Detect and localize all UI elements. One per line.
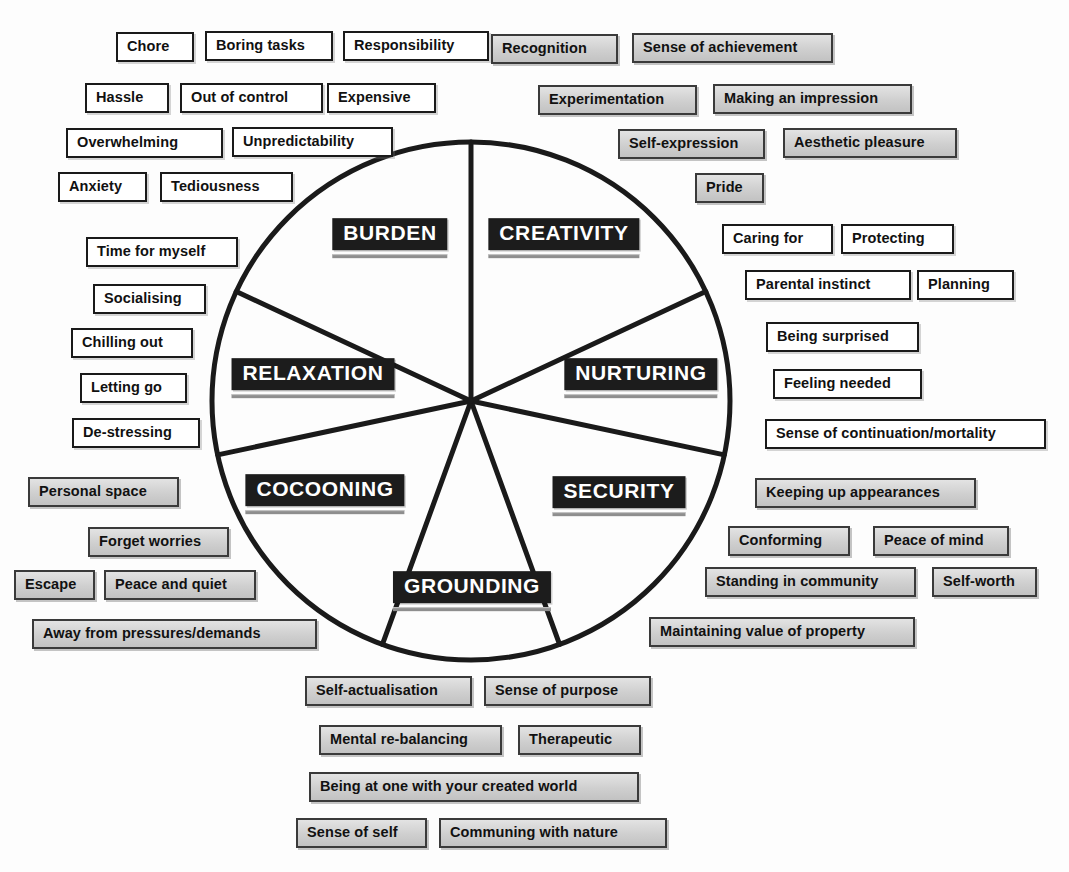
attribute-chip[interactable]: Unpredictability	[232, 127, 393, 157]
attribute-chip[interactable]: Communing with nature	[439, 818, 667, 848]
sector-label-relaxation[interactable]: RELAXATION	[232, 358, 395, 398]
attribute-chip[interactable]: De-stressing	[72, 418, 200, 448]
attribute-chip[interactable]: Away from pressures/demands	[32, 619, 317, 649]
attribute-chip[interactable]: Overwhelming	[66, 128, 223, 158]
sector-label-text-relaxation: RELAXATION	[232, 358, 395, 390]
attribute-chip[interactable]: Sense of self	[296, 818, 427, 848]
attribute-chip[interactable]: Expensive	[327, 83, 436, 113]
attribute-chip[interactable]: Sense of continuation/mortality	[765, 419, 1046, 449]
sector-label-underline-security	[553, 512, 686, 516]
attribute-chip[interactable]: Escape	[14, 570, 95, 600]
attribute-chip[interactable]: Keeping up appearances	[755, 478, 976, 508]
sector-label-underline-grounding	[393, 607, 551, 611]
attribute-chip[interactable]: Responsibility	[343, 31, 489, 61]
attribute-chip[interactable]: Self-worth	[932, 567, 1037, 597]
attribute-chip[interactable]: Boring tasks	[205, 31, 333, 61]
attribute-chip[interactable]: Chore	[116, 32, 194, 62]
attribute-chip[interactable]: Anxiety	[58, 172, 147, 202]
sector-label-underline-cocooning	[245, 510, 404, 514]
sector-divider-2	[471, 401, 724, 455]
attribute-chip[interactable]: Recognition	[491, 34, 618, 64]
attribute-chip[interactable]: Peace of mind	[873, 526, 1009, 556]
attribute-chip[interactable]: Conforming	[728, 526, 850, 556]
sector-label-underline-creativity	[488, 254, 639, 258]
sector-label-creativity[interactable]: CREATIVITY	[488, 218, 639, 258]
sector-label-text-burden: BURDEN	[332, 218, 447, 250]
attribute-chip[interactable]: Making an impression	[713, 84, 912, 114]
sector-label-text-nurturing: NURTURING	[564, 358, 717, 390]
sector-label-grounding[interactable]: GROUNDING	[393, 571, 551, 611]
attribute-chip[interactable]: Sense of achievement	[632, 33, 833, 63]
attribute-chip[interactable]: Mental re-balancing	[319, 725, 502, 755]
attribute-chip[interactable]: Caring for	[722, 224, 833, 254]
attribute-chip[interactable]: Peace and quiet	[104, 570, 256, 600]
attribute-chip[interactable]: Maintaining value of property	[649, 617, 915, 647]
attribute-chip[interactable]: Feeling needed	[773, 369, 922, 399]
sector-label-security[interactable]: SECURITY	[553, 476, 686, 516]
attribute-chip[interactable]: Letting go	[80, 373, 187, 403]
attribute-chip[interactable]: Self-actualisation	[305, 676, 472, 706]
attribute-chip[interactable]: Personal space	[28, 477, 179, 507]
attribute-chip[interactable]: Out of control	[180, 83, 323, 113]
sector-label-text-cocooning: COCOONING	[245, 474, 404, 506]
attribute-chip[interactable]: Parental instinct	[745, 270, 911, 300]
sector-label-nurturing[interactable]: NURTURING	[564, 358, 717, 398]
sector-label-cocooning[interactable]: COCOONING	[245, 474, 404, 514]
diagram-canvas: BURDENCREATIVITYRELAXATIONNURTURINGCOCOO…	[0, 0, 1069, 872]
attribute-chip[interactable]: Being at one with your created world	[309, 772, 639, 802]
attribute-chip[interactable]: Being surprised	[766, 322, 919, 352]
attribute-chip[interactable]: Pride	[695, 173, 764, 203]
sector-divider-5	[218, 401, 471, 455]
sector-label-burden[interactable]: BURDEN	[332, 218, 447, 258]
attribute-chip[interactable]: Socialising	[93, 284, 206, 314]
sector-label-underline-relaxation	[232, 394, 395, 398]
attribute-chip[interactable]: Planning	[917, 270, 1014, 300]
attribute-chip[interactable]: Therapeutic	[518, 725, 641, 755]
sector-label-text-grounding: GROUNDING	[393, 571, 551, 603]
attribute-chip[interactable]: Protecting	[841, 224, 954, 254]
attribute-chip[interactable]: Experimentation	[538, 85, 697, 115]
attribute-chip[interactable]: Time for myself	[86, 237, 238, 267]
attribute-chip[interactable]: Tediousness	[160, 172, 293, 202]
attribute-chip[interactable]: Forget worries	[88, 527, 229, 557]
attribute-chip[interactable]: Chilling out	[71, 328, 193, 358]
attribute-chip[interactable]: Hassle	[85, 83, 169, 113]
attribute-chip[interactable]: Sense of purpose	[484, 676, 651, 706]
attribute-chip[interactable]: Aesthetic pleasure	[783, 128, 957, 158]
attribute-chip[interactable]: Self-expression	[618, 129, 765, 159]
attribute-chip[interactable]: Standing in community	[705, 567, 916, 597]
sector-label-underline-nurturing	[564, 394, 717, 398]
sector-label-text-security: SECURITY	[553, 476, 686, 508]
sector-label-text-creativity: CREATIVITY	[488, 218, 639, 250]
sector-label-underline-burden	[332, 254, 447, 258]
